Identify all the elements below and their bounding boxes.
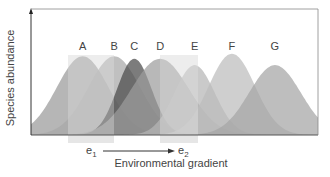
highlight-overlay-e1 [68,55,114,135]
species-label-g: G [271,40,280,52]
species-label-c: C [130,40,138,52]
species-label-b: B [111,40,118,52]
species-label-f: F [229,40,236,52]
x-axis-label: Environmental gradient [0,157,330,169]
species-labels: ABCDEFG [79,40,279,52]
species-label-a: A [79,40,87,52]
species-abundance-diagram: ABCDEFG e1 e2 [0,0,330,177]
highlight-overlay-e2 [160,55,198,135]
x-axis-label-text: Environmental gradient [114,157,227,169]
species-label-d: D [156,40,164,52]
gradient-arrow-icon [168,149,175,154]
species-label-e: E [191,40,198,52]
